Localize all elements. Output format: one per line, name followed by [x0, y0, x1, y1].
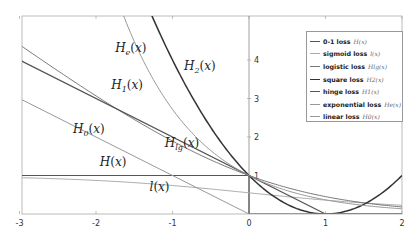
curve-label: H0(x)	[72, 122, 105, 138]
legend-math: He(x)	[384, 101, 401, 108]
legend-swatch	[310, 104, 320, 105]
legend-item: logistic lossHlg(x)	[307, 60, 402, 73]
legend-label: exponential loss	[323, 101, 381, 108]
legend-math: H0(x)	[363, 113, 380, 120]
legend-label: logistic loss	[323, 63, 365, 70]
x-tick-label: -2	[92, 219, 100, 228]
legend-swatch	[310, 53, 320, 54]
legend-swatch	[310, 41, 320, 42]
x-tick-label: 2	[399, 219, 404, 228]
legend-math: H2(x)	[367, 76, 384, 83]
legend-label: square loss	[323, 76, 364, 83]
legend-item: hinge lossH1(x)	[307, 85, 402, 98]
legend-label: hinge loss	[323, 88, 359, 95]
legend-item: sigmoid lossl(x)	[307, 48, 402, 61]
legend-math: Hlg(x)	[368, 63, 387, 70]
curve-label: H1(x)	[110, 78, 143, 94]
legend-item: square lossH2(x)	[307, 73, 402, 86]
legend-swatch	[310, 66, 320, 67]
curve-label: Hlg(x)	[164, 136, 199, 152]
legend: 0-1 lossH(x)sigmoid lossl(x)logistic los…	[306, 31, 403, 122]
legend-item: 0-1 lossH(x)	[307, 35, 402, 48]
curve-labels: He(x)H2(x)H1(x)H0(x)Hlg(x)H(x)l(x)	[72, 41, 216, 194]
y-tick-label: 2	[254, 133, 259, 142]
legend-label: sigmoid loss	[323, 50, 367, 57]
legend-item: linear lossH0(x)	[307, 111, 402, 124]
sigmoid-loss-curve	[20, 178, 403, 206]
legend-item: exponential lossHe(x)	[307, 98, 402, 111]
curve-label: H(x)	[99, 155, 127, 169]
curve-label: H2(x)	[183, 59, 216, 75]
curve-label: He(x)	[114, 41, 146, 57]
y-tick-label: 3	[254, 95, 259, 104]
legend-math: H(x)	[354, 38, 367, 45]
legend-label: linear loss	[323, 113, 360, 120]
x-tick-label: 0	[246, 219, 251, 228]
x-tick-label: -3	[16, 219, 24, 228]
y-tick-label: 4	[254, 56, 259, 65]
legend-math: l(x)	[370, 50, 380, 57]
legend-swatch	[310, 91, 320, 92]
legend-label: 0-1 loss	[323, 38, 351, 45]
legend-swatch	[310, 116, 320, 117]
x-tick-label: -1	[169, 219, 177, 228]
x-tick-label: 1	[323, 219, 328, 228]
legend-math: H1(x)	[362, 88, 379, 95]
curve-label: l(x)	[150, 180, 170, 194]
legend-swatch	[310, 79, 320, 80]
